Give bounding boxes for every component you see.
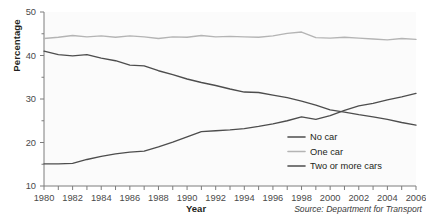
y-axis-ticks (40, 12, 44, 186)
x-tick-label: 1994 (234, 193, 255, 203)
x-tick-label: 2006 (406, 193, 426, 203)
line-chart-plot: 1020304050 19801982198419861988199019921… (0, 0, 426, 221)
x-tick-label: 1992 (205, 193, 226, 203)
y-axis-tick-labels: 1020304050 (26, 7, 36, 191)
y-tick-label: 40 (26, 51, 36, 61)
x-tick-label: 1998 (291, 193, 312, 203)
x-tick-label: 1984 (91, 193, 112, 203)
y-tick-label: 30 (26, 94, 36, 104)
x-tick-label: 1982 (62, 193, 83, 203)
x-tick-label: 1990 (177, 193, 198, 203)
x-tick-label: 1996 (263, 193, 284, 203)
x-tick-label: 1988 (148, 193, 169, 203)
y-tick-label: 20 (26, 138, 36, 148)
x-tick-label: 2004 (377, 193, 398, 203)
y-tick-label: 10 (26, 181, 36, 191)
x-tick-label: 2002 (348, 193, 369, 203)
chart-figure: Percentage Year Source: Department for T… (0, 0, 426, 221)
legend-label-2: Two or more cars (310, 161, 382, 171)
x-tick-label: 1986 (120, 193, 141, 203)
legend-label-1: One car (310, 147, 343, 157)
x-tick-label: 2000 (320, 193, 341, 203)
legend-label-0: No car (310, 132, 337, 142)
x-axis-tick-labels: 1980198219841986198819901992199419961998… (34, 193, 426, 203)
x-axis-ticks (44, 186, 416, 190)
x-tick-label: 1980 (34, 193, 55, 203)
y-tick-label: 50 (26, 7, 36, 17)
